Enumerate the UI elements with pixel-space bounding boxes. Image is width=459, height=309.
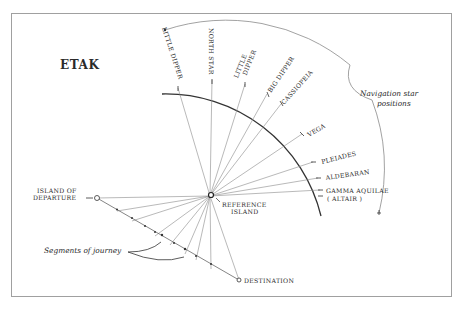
reference-island-marker [209,193,214,198]
departure-island-label: ISLAND OF DEPARTURE [33,187,77,201]
reference-island-label: REFERENCE ISLAND [222,201,267,215]
bearing-lines [97,80,320,280]
segments-pointer-2 [128,252,184,260]
star-label-north-star: NORTH STAR [208,28,215,75]
svg-text:DEPARTURE: DEPARTURE [33,194,76,201]
svg-text:positions: positions [377,99,411,108]
svg-text:( ALTAIR ): ( ALTAIR ) [327,195,362,202]
destination-marker [237,278,241,282]
star-label-little-dipper: LITTLE DIPPER [232,46,257,82]
outer-star-arc [165,20,384,213]
svg-text:ISLAND OF: ISLAND OF [37,187,77,194]
journey-line [97,198,239,280]
svg-text:Navigation star: Navigation star [359,89,419,98]
destination-label: DESTINATION [244,277,294,284]
svg-text:GAMMA AQUILAE: GAMMA AQUILAE [326,187,389,194]
diagram-title: ETAK [60,58,100,72]
segments-pointer-1 [128,242,161,252]
svg-text:REFERENCE: REFERENCE [222,201,267,208]
segments-of-journey-label: Segments of journey [44,246,122,255]
etak-diagram: ETAK LITT [0,0,459,309]
star-label-aldebaran: ALDEBARAN [324,168,370,181]
outer-arc-end-tick [377,210,381,215]
star-label-pleiades: PLEIADES [321,150,357,165]
star-label-vega: VEGA [305,122,327,138]
star-label-altair: GAMMA AQUILAE ( ALTAIR ) [326,187,389,202]
departure-island-marker [95,196,100,201]
star-label-little-dipper-setting: LITTLE DIPPER [161,26,184,80]
star-ticks [178,79,323,196]
svg-text:ISLAND: ISLAND [231,208,258,215]
